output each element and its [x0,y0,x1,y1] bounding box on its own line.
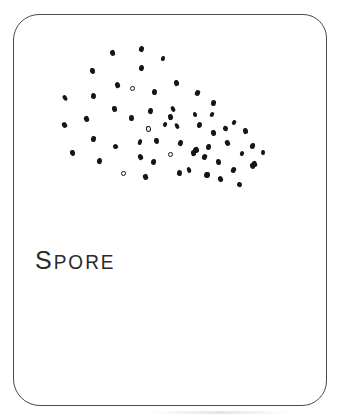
spore-card[interactable]: SPORE [13,14,327,406]
card-title: SPORE [35,247,116,275]
scan-artifact [150,411,290,414]
page: SPORE [0,0,338,416]
